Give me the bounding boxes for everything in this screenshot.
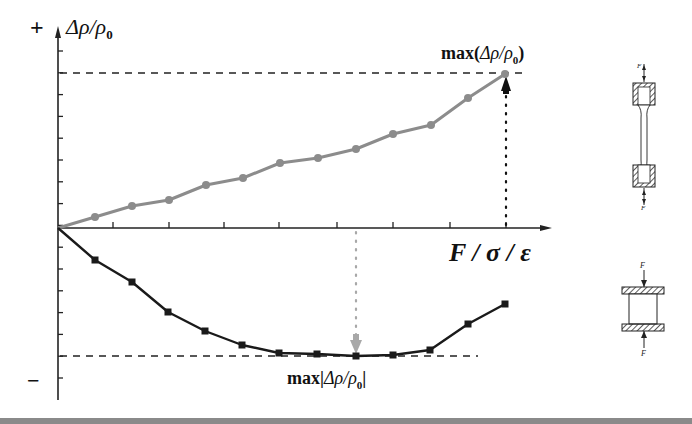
compressive-specimen-icon <box>622 270 664 348</box>
data-point <box>465 321 472 328</box>
data-point <box>389 130 397 138</box>
max-negative-suffix: | <box>362 368 366 388</box>
y-axis <box>55 26 63 400</box>
data-point <box>353 353 360 360</box>
bottom-border-band <box>0 418 692 424</box>
data-point <box>390 352 397 359</box>
data-point <box>352 145 360 153</box>
x-axis-label: F / σ / ε <box>449 238 531 268</box>
compressive-force-label-bottom: F <box>640 349 646 358</box>
x-axis <box>58 222 552 231</box>
data-point <box>239 342 246 349</box>
data-point <box>276 350 283 357</box>
y-axis-label-sub: 0 <box>106 27 113 42</box>
data-point <box>239 174 247 182</box>
data-point <box>276 159 284 167</box>
data-point <box>501 70 509 78</box>
tensile-force-label-bottom: F <box>640 204 646 212</box>
data-point <box>165 196 173 204</box>
y-axis-label-main: Δρ/ρ <box>66 14 106 39</box>
data-point <box>314 351 321 358</box>
y-negative-label: − <box>27 368 40 394</box>
max-negative-prefix: max| <box>287 368 324 388</box>
tensile-series <box>58 70 509 228</box>
y-axis-label: Δρ/ρ0 <box>66 14 113 43</box>
data-point <box>128 202 136 210</box>
data-point <box>427 121 435 129</box>
data-point <box>427 347 434 354</box>
data-point <box>165 309 172 316</box>
max-positive-body: Δρ/ρ <box>480 43 513 63</box>
max-negative-arrow-icon <box>350 340 362 354</box>
compressive-force-label-top: F <box>639 261 645 270</box>
data-point <box>129 279 136 286</box>
max-negative-body: Δρ/ρ <box>324 368 357 388</box>
data-point <box>91 213 99 221</box>
tensile-specimen-icon <box>633 64 655 205</box>
data-point <box>202 181 210 189</box>
max-positive-suffix: ) <box>518 43 524 63</box>
max-positive-prefix: max( <box>441 43 480 63</box>
data-point <box>202 328 209 335</box>
max-negative-annotation: max|Δρ/ρ0| <box>287 368 366 391</box>
y-positive-label: + <box>30 14 44 41</box>
data-point <box>92 257 99 264</box>
chart-canvas: F F F F <box>0 0 692 424</box>
compressive-series <box>58 228 509 360</box>
data-point <box>464 94 472 102</box>
tensile-force-label-top: F <box>636 62 642 70</box>
data-point <box>502 301 509 308</box>
data-point <box>314 154 322 162</box>
max-positive-annotation: max(Δρ/ρ0) <box>441 43 524 66</box>
